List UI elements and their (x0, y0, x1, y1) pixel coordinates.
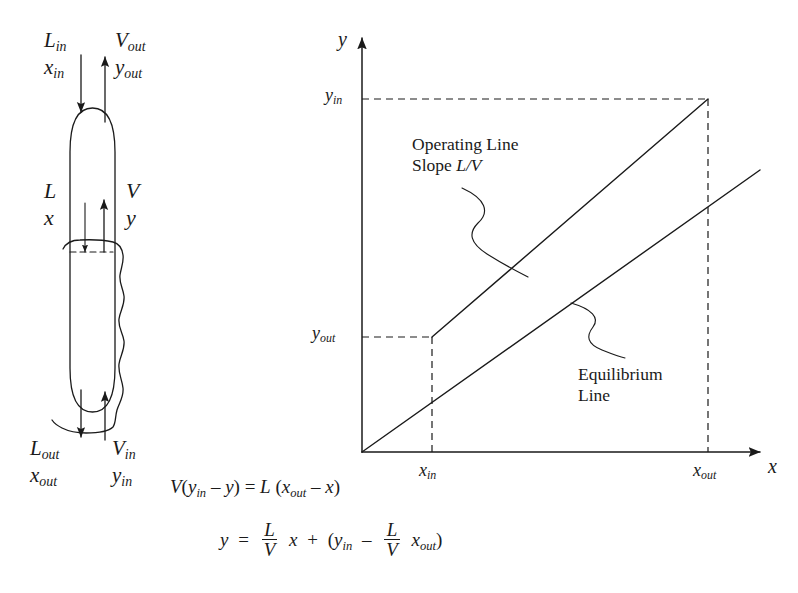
equation-operating-line: y = L V x + (yin – L V xout) (220, 520, 442, 560)
leader-lines-group (462, 188, 625, 358)
plot-axes-group (362, 38, 760, 452)
label-V-in: Vin (112, 436, 136, 463)
fraction-L-over-V-2: L V (384, 520, 400, 560)
plot-ytick-y-out: yout (312, 323, 335, 346)
control-volume-boundary (52, 240, 124, 433)
annotation-operating-line-row2: Slope L/V (412, 155, 518, 176)
equilibrium-line (362, 170, 760, 452)
label-y-out: yout (115, 55, 142, 82)
label-V-out: Vout (115, 28, 146, 55)
equation-mass-balance: V(yin – y) = L (xout – x) (170, 476, 340, 501)
label-y-middle: y (126, 205, 136, 231)
label-L-middle: L (44, 178, 56, 204)
fraction-L-over-V-1: L V (262, 520, 278, 560)
annotation-operating-line-row1: Operating Line (412, 134, 518, 155)
annotation-equilibrium-line: Equilibrium Line (578, 364, 663, 407)
label-L-in: Lin (44, 28, 66, 55)
diagram-vector-layer (0, 0, 798, 593)
plot-xtick-x-in: xin (419, 460, 436, 483)
label-y-in: yin (112, 463, 132, 490)
annotation-operating-line: Operating Line Slope L/V (412, 134, 518, 177)
annotation-equilibrium-line-row2: Line (578, 385, 663, 406)
column-vessel-outline (70, 108, 115, 412)
label-L-out: Lout (30, 436, 59, 463)
plot-x-axis-label: x (768, 455, 777, 478)
plot-ytick-y-in: yin (325, 85, 342, 108)
label-x-out: xout (30, 463, 57, 490)
figure-canvas: Lin xin Vout yout L x V y Lout xout Vin … (0, 0, 798, 593)
equilibrium-line-leader (571, 303, 625, 358)
plot-y-axis-label: y (338, 28, 347, 51)
absorption-column-group (52, 55, 124, 440)
label-x-in: xin (44, 55, 64, 82)
label-V-middle: V (126, 178, 139, 204)
annotation-equilibrium-line-row1: Equilibrium (578, 364, 663, 385)
label-x-middle: x (44, 205, 54, 231)
plot-xtick-x-out: xout (693, 460, 716, 483)
